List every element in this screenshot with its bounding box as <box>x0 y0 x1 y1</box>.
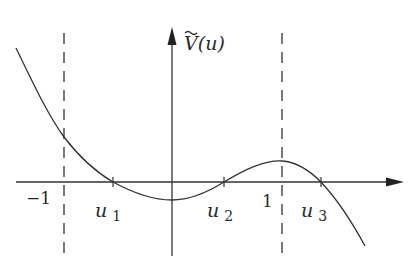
tick-label-minus-one: −1 <box>26 188 51 208</box>
root-label-u2: u2 <box>207 199 233 224</box>
potential-plot: V(u) −1 1 u1 u2 u3 <box>0 0 415 261</box>
root-label-u1: u1 <box>95 199 121 224</box>
y-axis-arrow-icon <box>168 27 177 45</box>
y-axis-label: V(u) <box>184 32 225 54</box>
x-axis-arrow-icon <box>386 178 404 187</box>
root-label-u3: u3 <box>301 199 327 224</box>
tick-label-one: 1 <box>262 191 273 211</box>
